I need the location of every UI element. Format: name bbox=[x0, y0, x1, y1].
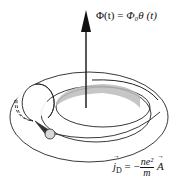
flux-rhs: Φ₀θ (t) bbox=[126, 9, 157, 21]
current-eq: = − bbox=[122, 160, 140, 172]
current-vector-j: j bbox=[113, 160, 116, 172]
fraction-denominator: m bbox=[140, 168, 154, 178]
vector-potential-a: A bbox=[157, 160, 164, 172]
shaded-hole-surface bbox=[56, 84, 140, 108]
current-lhs: j bbox=[113, 160, 116, 172]
fraction: ne²m bbox=[140, 157, 154, 178]
current-line bbox=[55, 112, 160, 138]
cylinder-end bbox=[45, 129, 55, 139]
current-rhs: A bbox=[157, 160, 164, 172]
arrow-head-icon bbox=[81, 10, 91, 32]
flux-eq: = bbox=[114, 9, 126, 21]
current-equation: jD = −ne²m A bbox=[113, 157, 164, 178]
flux-lhs: Φ(t) bbox=[96, 9, 114, 21]
flux-equation: Φ(t) = Φ₀θ (t) bbox=[96, 9, 157, 21]
